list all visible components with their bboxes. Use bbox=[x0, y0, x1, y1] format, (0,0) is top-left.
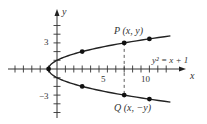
point-marker bbox=[46, 67, 51, 72]
x-axis bbox=[8, 66, 186, 73]
point-marker bbox=[147, 36, 152, 41]
x-tick-label-5: 5 bbox=[101, 74, 106, 84]
point-marker bbox=[122, 93, 127, 98]
x-axis-arrow-icon bbox=[179, 67, 186, 72]
equation-label: y² = x + 1 bbox=[151, 55, 188, 65]
y-tick-label-3: 3 bbox=[44, 37, 49, 47]
point-p-label: P (x, y) bbox=[113, 25, 144, 37]
y-axis-label: y bbox=[61, 6, 67, 17]
point-marker bbox=[80, 49, 85, 54]
x-tick-label-10: 10 bbox=[141, 74, 151, 84]
point-marker bbox=[122, 41, 127, 46]
parabola-chart: x y 5 10 3 −3 P (x, y) Q (x, −y) y² = x … bbox=[0, 0, 207, 124]
point-marker bbox=[147, 97, 152, 102]
y-tick-label-neg3: −3 bbox=[39, 91, 49, 101]
point-q-label: Q (x, −y) bbox=[114, 102, 152, 114]
point-marker bbox=[80, 84, 85, 89]
x-axis-label: x bbox=[189, 70, 195, 81]
y-axis-arrow-icon bbox=[55, 9, 60, 16]
y-axis bbox=[54, 9, 61, 118]
